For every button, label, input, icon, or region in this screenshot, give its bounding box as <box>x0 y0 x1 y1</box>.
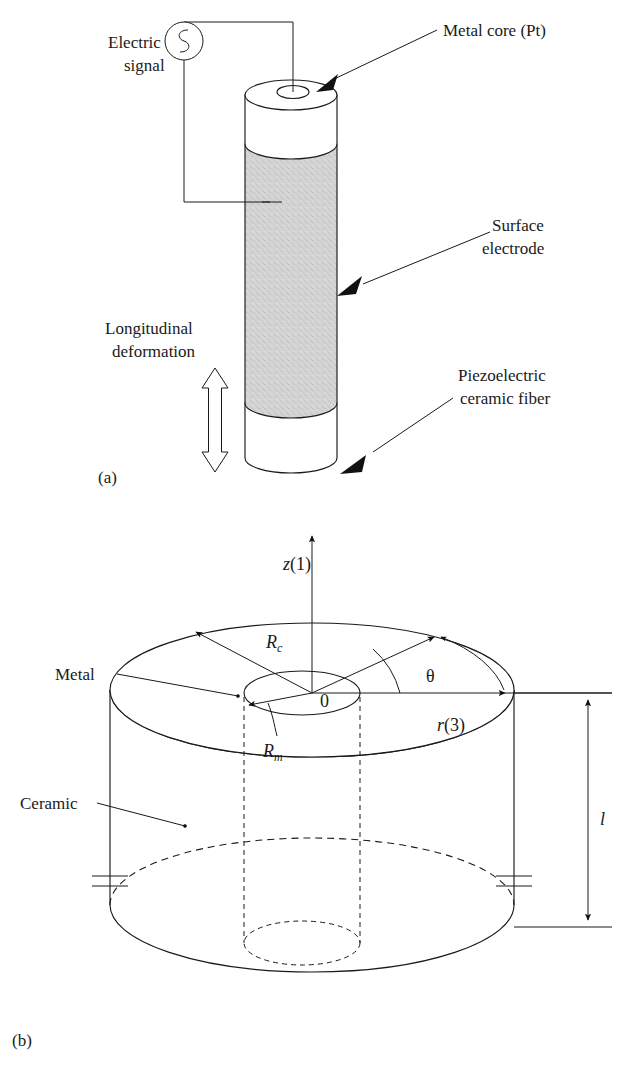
double-arrow-vertical-icon <box>202 368 228 472</box>
panel-label-a: (a) <box>98 468 117 487</box>
label-surface-electrode-line2: electrode <box>482 239 544 258</box>
leader-metal-core-line <box>330 30 437 81</box>
leader-metal-core <box>316 30 437 92</box>
leader-piezo-fiber-line <box>373 398 453 452</box>
label-radius-ceramic-sub: c <box>277 641 283 655</box>
label-axis-z: z(1) <box>282 554 311 575</box>
label-origin: 0 <box>320 691 329 711</box>
deformation-arrow-shape <box>202 368 228 472</box>
label-ceramic: Ceramic <box>20 794 78 813</box>
label-axis-r-index: (3) <box>444 715 465 736</box>
bottom-face-back-arc <box>110 838 514 905</box>
leader-surface-electrode <box>337 232 490 296</box>
panel-label-b: (b) <box>12 1031 32 1050</box>
label-axis-z-symbol: z <box>282 554 290 574</box>
leader-piezo-fiber <box>340 398 453 474</box>
label-radius-metal-sub: m <box>274 750 283 764</box>
leader-surface-electrode-arrow <box>337 276 362 296</box>
label-metal: Metal <box>55 665 95 684</box>
ac-source-icon <box>165 22 203 60</box>
label-piezo-fiber-line2: ceramic fiber <box>460 389 550 408</box>
label-axis-r: r(3) <box>437 715 465 736</box>
label-theta: θ <box>426 666 435 686</box>
label-piezo-fiber-line1: Piezoelectric <box>458 366 546 385</box>
label-metal-core: Metal core (Pt) <box>443 21 546 40</box>
ceramic-bottom-face <box>110 838 514 972</box>
label-electric-signal-line2: signal <box>124 56 165 75</box>
leader-surface-electrode-line <box>363 232 490 284</box>
dimension-length-l <box>514 693 612 927</box>
fiber-electrode-body <box>245 144 337 418</box>
label-longitudinal-line1: Longitudinal <box>105 319 193 338</box>
technical-figure-svg: Electric signal Metal core (Pt) Surface … <box>0 0 635 1081</box>
bottom-face-front-arc <box>110 905 514 972</box>
label-radius-ceramic-symbol: R <box>265 632 277 652</box>
fiber-cylinder <box>245 80 337 473</box>
label-longitudinal-line2: deformation <box>112 342 196 361</box>
panel-b: z(1) r(3) θ 0 Rc Rm l Metal Ceram <box>12 536 612 1050</box>
label-length-l: l <box>600 809 605 829</box>
label-radius-metal-symbol: R <box>262 741 274 761</box>
core-bottom-hidden-ellipse <box>244 921 360 965</box>
label-surface-electrode-line1: Surface <box>492 216 544 235</box>
panel-a: Electric signal Metal core (Pt) Surface … <box>98 21 550 487</box>
leader-piezo-fiber-arrow <box>340 455 366 474</box>
figure-root: Electric signal Metal core (Pt) Surface … <box>0 0 635 1081</box>
label-electric-signal-line1: Electric <box>108 33 161 52</box>
label-axis-z-index: (1) <box>290 554 311 575</box>
